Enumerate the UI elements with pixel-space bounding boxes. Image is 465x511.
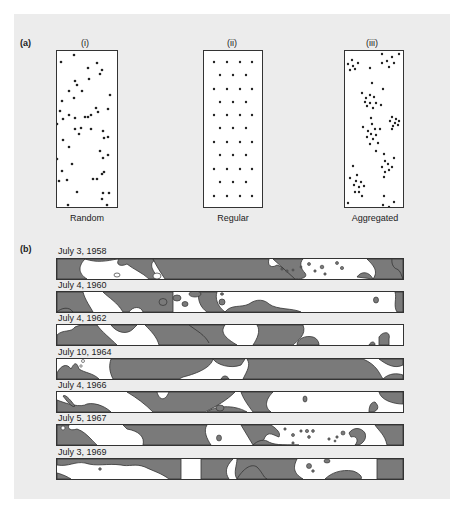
- strip-1967: [56, 424, 404, 446]
- panel-a-label: (a): [20, 38, 31, 48]
- pattern-iii-numeral: (iii): [352, 38, 392, 48]
- pattern-i-numeral: (i): [65, 38, 105, 48]
- strip-1964: [56, 358, 404, 380]
- patch-map-1967: [57, 425, 403, 445]
- strip-1960: [56, 291, 404, 313]
- patch-map-1962: [57, 325, 403, 345]
- random-caption: Random: [42, 213, 132, 223]
- strip-date-1967: July 5, 1967: [58, 413, 107, 423]
- random-dots: [57, 51, 117, 207]
- strip-date-1966: July 4, 1966: [58, 380, 107, 390]
- patch-map-1964: [57, 359, 403, 379]
- strip-date-1962: July 4, 1962: [58, 313, 107, 323]
- strip-1969: [56, 458, 404, 480]
- regular-caption: Regular: [188, 213, 278, 223]
- strip-date-1969: July 3, 1969: [58, 447, 107, 457]
- regular-dots: [204, 51, 262, 207]
- pattern-ii-numeral: (ii): [212, 38, 252, 48]
- panel-b-label: (b): [20, 244, 32, 254]
- strip-1966: [56, 391, 404, 413]
- strip-date-1958: July 3, 1958: [58, 246, 107, 256]
- random-distribution-box: [56, 50, 118, 208]
- patch-map-1960: [57, 292, 403, 312]
- aggregated-caption: Aggregated: [330, 213, 420, 223]
- patch-map-1969: [57, 459, 403, 479]
- patch-map-1966: [57, 392, 403, 412]
- regular-distribution-box: [203, 50, 263, 208]
- strip-1962: [56, 324, 404, 346]
- strip-date-1964: July 10, 1964: [58, 347, 112, 357]
- aggregated-dots: [345, 51, 403, 207]
- aggregated-distribution-box: [344, 50, 404, 208]
- patch-map-1958: [57, 259, 403, 279]
- strip-1958: [56, 258, 404, 280]
- strip-date-1960: July 4, 1960: [58, 280, 107, 290]
